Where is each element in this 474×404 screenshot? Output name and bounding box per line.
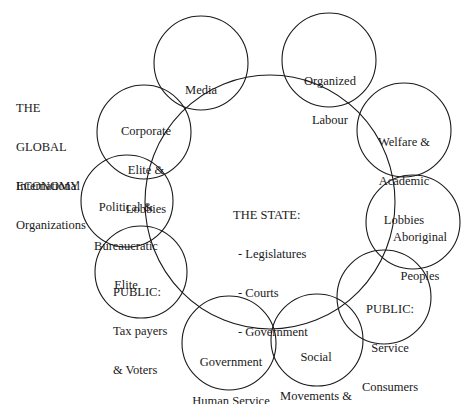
label-line: Service: [362, 342, 418, 355]
label-line: PUBLIC:: [362, 303, 418, 316]
media-label: Media: [185, 58, 217, 110]
label-line: Organizations: [16, 219, 86, 232]
label-line: Corporate: [121, 125, 171, 138]
label-line: Labour: [304, 114, 356, 127]
label-line: THE: [16, 102, 79, 115]
state-item: - Legislatures: [233, 248, 308, 261]
label-line: International: [16, 180, 86, 193]
public-service-label: PUBLIC: Service Consumers & Voters: [362, 277, 418, 404]
govt-human-service-label: Government Human Service Organizations: [192, 330, 269, 404]
label-line: Academic: [378, 175, 430, 188]
public-taxpayers-label: PUBLIC: Tax payers & Voters: [113, 260, 167, 390]
label-line: & Voters: [113, 364, 167, 377]
label-line: Organized: [304, 75, 356, 88]
label-line: Human Service: [192, 395, 269, 404]
label-line: Consumers: [362, 381, 418, 394]
organized-labour-label: Organized Labour: [304, 49, 356, 140]
label-line: Government: [192, 356, 269, 369]
label-line: Social: [277, 351, 354, 364]
label-line: Aboriginal: [393, 231, 447, 244]
label-line: GLOBAL: [16, 141, 79, 154]
state-title: THE STATE:: [233, 209, 308, 222]
label-line: PUBLIC:: [113, 286, 167, 299]
social-movements-label: Social Movements & Human Service Organiz…: [277, 325, 354, 404]
label-line: Welfare &: [378, 136, 430, 149]
state-item: - Courts: [233, 287, 308, 300]
label-line: Media: [185, 84, 217, 97]
label-line: Political &: [94, 201, 158, 214]
label-line: Bureaucratic: [94, 240, 158, 253]
label-line: Movements &: [277, 390, 354, 403]
international-organizations-label: International Organizations: [16, 154, 86, 245]
label-line: Tax payers: [113, 325, 167, 338]
